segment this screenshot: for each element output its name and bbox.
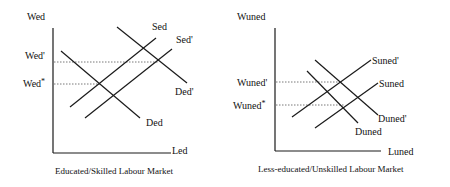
wed-star-label: Wed* bbox=[23, 77, 45, 89]
suned-label: Suned bbox=[379, 78, 404, 89]
left-x-axis-label: Led bbox=[172, 145, 188, 156]
duned-prime-label: Duned' bbox=[378, 113, 407, 124]
sed-label: Sed bbox=[152, 21, 167, 32]
sed-prime-label: Sed' bbox=[176, 34, 193, 45]
right-y-axis-label: Wuned bbox=[237, 11, 265, 22]
left-y-axis-label: Wed bbox=[27, 11, 45, 22]
right-chart: Wuned Wuned' Wuned* Suned' Suned Duned' … bbox=[233, 11, 414, 174]
ded-label: Ded bbox=[146, 117, 163, 128]
ded-prime-label: Ded' bbox=[175, 86, 194, 97]
left-caption: Educated/Skilled Labour Market bbox=[55, 166, 173, 176]
wuned-star-label: Wuned* bbox=[233, 99, 265, 111]
suned-curve bbox=[315, 83, 378, 128]
suned-prime-curve bbox=[292, 60, 371, 117]
wuned-prime-label: Wuned' bbox=[237, 77, 267, 88]
right-x-axis-label: Luned bbox=[388, 146, 414, 157]
duned-label: Duned bbox=[355, 126, 382, 137]
wed-prime-label: Wed' bbox=[25, 50, 45, 61]
supply-demand-diagrams: Wed Wed' Wed* Sed Sed' Ded' Ded Led Educ… bbox=[0, 0, 450, 187]
right-caption: Less-educated/Unskilled Labour Market bbox=[258, 164, 404, 174]
duned-prime-curve bbox=[315, 60, 378, 115]
left-chart: Wed Wed' Wed* Sed Sed' Ded' Ded Led Educ… bbox=[23, 11, 194, 176]
suned-prime-label: Suned' bbox=[372, 55, 399, 66]
